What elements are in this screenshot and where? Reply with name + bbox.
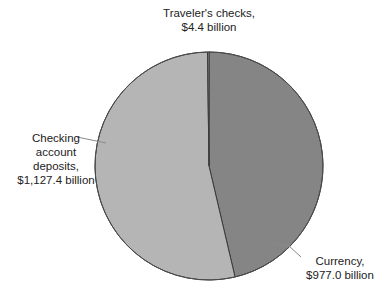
label-travelers-name: Traveler's checks, <box>146 6 272 20</box>
label-travelers-checks: Traveler's checks, $4.4 billion <box>146 6 272 34</box>
label-checking-line1: Checking <box>4 131 108 145</box>
label-checking-value: $1,127.4 billion <box>4 173 108 187</box>
label-checking-deposits: Checking account deposits, $1,127.4 bill… <box>4 131 108 187</box>
label-travelers-value: $4.4 billion <box>146 20 272 34</box>
label-checking-line2: account <box>4 145 108 159</box>
label-currency: Currency, $977.0 billion <box>297 254 379 282</box>
label-checking-line3: deposits, <box>4 159 108 173</box>
label-currency-value: $977.0 billion <box>297 268 379 282</box>
label-currency-name: Currency, <box>297 254 379 268</box>
